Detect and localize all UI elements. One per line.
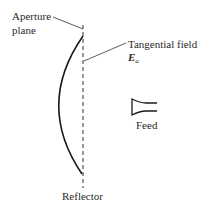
aperture-label-line1: Aperture	[12, 10, 51, 22]
reflector-arc	[59, 36, 83, 174]
field-subscript: a	[135, 57, 139, 65]
feed-label: Feed	[136, 119, 157, 131]
tangential-label-text: Tangential field	[128, 38, 197, 50]
reflector-label: Reflector	[62, 190, 103, 202]
aperture-plane-label: Aperture plane	[12, 10, 51, 36]
aperture-leader	[53, 17, 83, 29]
tangential-field-label: Tangential field Ea	[128, 38, 197, 67]
field-symbol: Ea	[128, 51, 197, 67]
tangential-leader	[84, 43, 126, 61]
feed-horn-icon	[132, 99, 157, 115]
aperture-label-line2: plane	[12, 24, 51, 36]
